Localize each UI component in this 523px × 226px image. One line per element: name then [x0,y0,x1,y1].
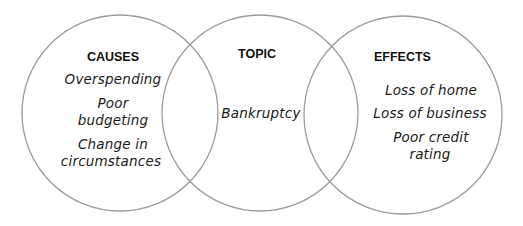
cause-item-change-line2: circumstances [61,153,161,169]
topic-heading: TOPIC [238,47,276,61]
causes-heading: CAUSES [87,50,139,64]
effect-item-poor-credit-line2: rating [409,146,450,162]
topic-item-bankruptcy: Bankruptcy [221,105,301,121]
cause-item-poor-budgeting-line2: budgeting [78,112,149,128]
effect-item-loss-of-home: Loss of home [385,82,477,98]
cause-item-overspending: Overspending [65,71,162,87]
effect-item-loss-of-business: Loss of business [373,105,486,121]
venn-diagram: CAUSES Overspending Poor budgeting Chang… [0,0,523,226]
cause-item-change-line1: Change in [78,136,148,152]
effect-item-poor-credit-line1: Poor credit [393,129,469,145]
cause-item-poor-budgeting-line1: Poor [97,95,129,111]
effects-heading: EFFECTS [374,50,431,64]
